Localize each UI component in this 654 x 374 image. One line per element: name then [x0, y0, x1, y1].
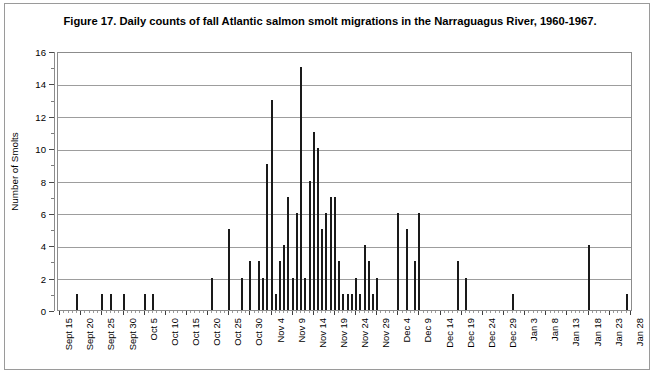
x-tick-mark: [249, 311, 250, 315]
x-tick-mark-minor: [495, 311, 496, 313]
x-tick-mark: [123, 311, 124, 315]
x-tick-mark-minor: [72, 311, 73, 313]
y-tick-label: 4: [41, 241, 46, 252]
bar: [317, 148, 319, 310]
x-tick-mark-minor: [93, 311, 94, 313]
x-tick-mark-minor: [558, 311, 559, 313]
x-tick-mark-minor: [520, 311, 521, 313]
bar: [228, 229, 230, 310]
x-tick-mark-minor: [287, 311, 288, 313]
y-tick-mark: [49, 246, 54, 247]
x-tick-mark-minor: [512, 311, 513, 313]
x-tick-mark-minor: [106, 311, 107, 313]
x-tick-mark-minor: [283, 311, 284, 313]
x-tick-mark: [144, 311, 145, 315]
bar: [144, 294, 146, 310]
y-tick-mark: [49, 279, 54, 280]
x-tick-mark-minor: [338, 311, 339, 313]
x-tick-mark-minor: [613, 311, 614, 313]
bar: [110, 294, 112, 310]
x-tick-mark-minor: [406, 311, 407, 313]
gridline: [58, 117, 631, 118]
x-tick-mark-minor: [245, 311, 246, 313]
bar: [330, 197, 332, 310]
x-tick-label: Nov 14: [317, 318, 328, 348]
x-tick-mark-minor: [220, 311, 221, 313]
bar: [123, 294, 125, 310]
x-tick-mark-minor: [550, 311, 551, 313]
y-tick-mark: [49, 182, 54, 183]
x-tick-mark-minor: [321, 311, 322, 313]
x-tick-mark-minor: [68, 311, 69, 313]
x-tick-mark: [545, 311, 546, 315]
y-tick-mark: [49, 84, 54, 85]
bar: [364, 245, 366, 310]
figure-container: Figure 17. Daily counts of fall Atlantic…: [0, 0, 654, 374]
x-tick-mark-minor: [562, 311, 563, 313]
x-tick-mark-minor: [199, 311, 200, 313]
bar: [258, 261, 260, 310]
x-tick-label: Jan 3: [528, 318, 539, 341]
x-tick-mark-minor: [457, 311, 458, 313]
y-tick-mark: [49, 311, 54, 312]
bar: [465, 278, 467, 310]
bar: [406, 229, 408, 310]
bar: [313, 132, 315, 310]
x-tick-mark-minor: [571, 311, 572, 313]
x-tick-mark: [630, 311, 631, 315]
x-tick-mark-minor: [241, 311, 242, 313]
gridline: [58, 182, 631, 183]
x-tick-mark: [566, 311, 567, 315]
x-tick-mark-minor: [304, 311, 305, 313]
x-tick-label: Nov 4: [275, 318, 286, 343]
bar: [262, 278, 264, 310]
x-tick-mark-minor: [190, 311, 191, 313]
x-tick-mark-minor: [583, 311, 584, 313]
y-tick-mark: [49, 214, 54, 215]
bar: [266, 164, 268, 310]
x-tick-mark-minor: [541, 311, 542, 313]
x-tick-mark-minor: [76, 311, 77, 313]
x-tick-mark-minor: [156, 311, 157, 313]
x-tick-label: Nov 24: [359, 318, 370, 348]
x-tick-mark-minor: [317, 311, 318, 313]
y-tick-mark-minor: [51, 198, 54, 199]
x-tick-mark: [207, 311, 208, 315]
plot-area: [57, 52, 632, 311]
x-tick-label: Dec 4: [401, 318, 412, 343]
x-tick-mark-minor: [410, 311, 411, 313]
x-tick-mark: [418, 311, 419, 315]
x-tick-mark-minor: [465, 311, 466, 313]
bar: [300, 67, 302, 310]
x-tick-mark-minor: [448, 311, 449, 313]
x-tick-mark-minor: [139, 311, 140, 313]
bar: [368, 261, 370, 310]
y-tick-label: 0: [41, 306, 46, 317]
x-tick-mark-minor: [486, 311, 487, 313]
bar: [588, 245, 590, 310]
x-tick-label: Dec 14: [444, 318, 455, 348]
x-tick-mark-minor: [402, 311, 403, 313]
x-tick-mark-minor: [342, 311, 343, 313]
y-tick-mark-minor: [51, 133, 54, 134]
x-tick-label: Jan 18: [592, 318, 603, 346]
x-tick-mark-minor: [423, 311, 424, 313]
gridline: [58, 85, 631, 86]
y-tick-mark-minor: [51, 262, 54, 263]
x-tick-mark-minor: [537, 311, 538, 313]
y-axis-line: [54, 52, 55, 311]
x-tick-label: Oct 25: [232, 318, 243, 346]
bar: [271, 100, 273, 310]
x-tick-mark-minor: [84, 311, 85, 313]
x-tick-mark: [101, 311, 102, 315]
bar: [241, 278, 243, 310]
x-tick-mark-minor: [182, 311, 183, 313]
x-tick-mark-minor: [528, 311, 529, 313]
x-tick-mark-minor: [389, 311, 390, 313]
x-tick-mark-minor: [232, 311, 233, 313]
x-tick-mark-minor: [621, 311, 622, 313]
x-tick-mark: [482, 311, 483, 315]
x-tick-mark-minor: [216, 311, 217, 313]
y-tick-mark: [49, 117, 54, 118]
y-tick-mark: [49, 149, 54, 150]
